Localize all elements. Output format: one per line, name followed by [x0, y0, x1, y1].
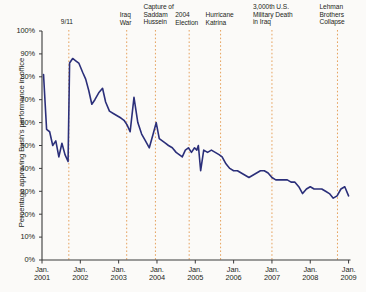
y-tick-label: 0% [9, 256, 35, 263]
y-tick-label: 50% [9, 142, 35, 149]
x-tick-label: Jan. 2006 [217, 266, 251, 283]
x-tick-label: Jan. 2003 [102, 266, 136, 283]
chart-figure: Percentage approving Bush's performance … [0, 0, 366, 292]
y-tick-label: 80% [9, 73, 35, 80]
x-tick-label: Jan. 2009 [332, 266, 366, 283]
event-label: 3,000th U.S. Military Death in Iraq [253, 3, 293, 26]
y-tick-label: 30% [9, 188, 35, 195]
x-tick-label: Jan. 2008 [293, 266, 327, 283]
y-tick-label: 100% [9, 27, 35, 34]
x-tick-label: Jan. 2005 [178, 266, 212, 283]
y-tick-label: 40% [9, 165, 35, 172]
event-label: 2004 Election [175, 11, 198, 26]
y-tick-label: 90% [9, 50, 35, 57]
x-tick-label: Jan. 2007 [255, 266, 289, 283]
event-dashed-lines [69, 30, 338, 260]
event-label: Iraq War [120, 11, 132, 26]
x-tick-label: Jan. 2004 [140, 266, 174, 283]
event-label: Capture of Saddam Hussein [143, 3, 173, 26]
x-tick-label: Jan. 2002 [63, 266, 97, 283]
y-tick-label: 60% [9, 119, 35, 126]
chart-plot-area [0, 0, 366, 292]
chart-axes [42, 31, 351, 260]
x-tick-label: Jan. 2001 [25, 266, 59, 283]
y-tick-label: 70% [9, 96, 35, 103]
event-label: 9/11 [61, 18, 73, 26]
approval-line [44, 58, 349, 198]
event-label: Hurricane Katrina [206, 11, 234, 26]
y-tick-label: 10% [9, 233, 35, 240]
event-label: Lehman Brothers Collapse [319, 3, 344, 26]
y-tick-label: 20% [9, 211, 35, 218]
